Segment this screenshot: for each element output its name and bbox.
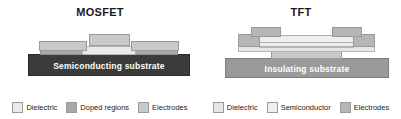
legend-item: Semiconductor [267,102,331,113]
panel-tft: TFT Insulating substrate Dielectr [201,0,401,119]
mosfet-gate-dielectric [82,46,136,55]
legend-swatch-dielectric-icon [12,102,23,113]
tft-substrate-label: Insulating substrate [226,65,388,74]
mosfet-source-electrode [39,41,87,51]
legend-label: Dielectric [26,103,57,112]
legend-label: Doped regions [80,103,129,112]
mosfet-substrate-label: Semiconducting substrate [29,62,189,71]
tft-gate-electrode [271,51,342,59]
legend-label: Dielectric [227,103,258,112]
legend-tft: Dielectric Semiconductor Electrodes [201,102,401,113]
tft-source-electrode-upper [251,27,281,37]
panel-mosfet: MOSFET Semiconducting substrate Dielectr… [0,0,200,119]
legend-label: Semiconductor [281,103,331,112]
legend-swatch-dielectric-icon [213,102,224,113]
tft-drain-electrode-upper [332,27,362,37]
legend-label: Electrodes [152,103,187,112]
legend-swatch-semiconductor-icon [267,102,278,113]
legend-item: Doped regions [66,102,129,113]
tft-cross-section: Insulating substrate [201,22,401,84]
legend-item: Dielectric [213,102,258,113]
panel-title-mosfet: MOSFET [0,6,200,18]
legend-label: Electrodes [354,103,389,112]
panel-title-tft: TFT [201,6,401,18]
figure-canvas: MOSFET Semiconducting substrate Dielectr… [0,0,401,119]
legend-swatch-electrodes-icon [340,102,351,113]
legend-swatch-doped-regions-icon [66,102,77,113]
legend-item: Electrodes [340,102,389,113]
legend-item: Electrodes [138,102,187,113]
mosfet-substrate: Semiconducting substrate [28,54,190,76]
mosfet-gate-electrode [89,34,130,46]
mosfet-cross-section: Semiconducting substrate [0,22,200,84]
mosfet-drain-electrode [131,41,179,51]
legend-item: Dielectric [12,102,57,113]
legend-swatch-electrodes-icon [138,102,149,113]
legend-mosfet: Dielectric Doped regions Electrodes [0,102,200,113]
tft-substrate: Insulating substrate [225,58,389,78]
